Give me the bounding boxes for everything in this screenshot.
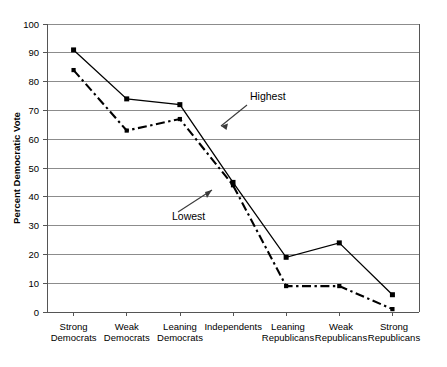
y-axis-title: Percent Democratic Vote [11,112,22,224]
x-label-leaning-democrats-line1: Leaning [163,321,197,332]
y-tick-label-70: 70 [28,105,39,116]
data-point-lowest-4[interactable] [284,284,288,288]
data-point-highest-6[interactable] [390,292,395,297]
y-tick-label-0: 0 [34,307,39,318]
y-tick-label-10: 10 [28,278,39,289]
x-label-strong-democrats-line1: Strong [60,321,88,332]
data-point-highest-4[interactable] [284,255,289,260]
x-label-leaning-republicans-line2: Republicans [262,332,315,343]
x-label-leaning-democrats-line2: Democrats [157,332,203,343]
x-tick-marks [74,312,393,316]
data-point-highest-0[interactable] [71,47,76,52]
x-label-leaning-republicans-line1: Leaning [271,321,305,332]
data-point-highest-1[interactable] [124,96,129,101]
x-label-independents-line1: Independents [204,321,262,332]
x-label-strong-republicans-line2: Republicans [368,332,421,343]
x-label-strong-democrats-line2: Democrats [51,332,97,343]
y-tick-label-20: 20 [28,249,39,260]
data-point-lowest-2[interactable] [178,117,182,121]
data-point-lowest-1[interactable] [125,128,129,132]
data-point-lowest-6[interactable] [390,307,394,311]
x-label-strong-republicans-line1: Strong [380,321,408,332]
y-tick-label-40: 40 [28,191,39,202]
x-label-weak-democrats-line1: Weak [115,321,139,332]
data-point-lowest-0[interactable] [71,68,75,72]
y-tick-label-50: 50 [28,163,39,174]
y-tick-label-90: 90 [28,47,39,58]
data-point-lowest-5[interactable] [337,284,341,288]
x-label-weak-democrats-line2: Democrats [104,332,150,343]
y-tick-label-60: 60 [28,134,39,145]
y-tick-marks [43,24,47,312]
y-tick-labels: 100 90 80 70 60 50 40 30 20 10 0 [23,19,39,318]
x-label-weak-republicans-line2: Republicans [315,332,368,343]
annotation-lowest-label: Lowest [172,210,205,222]
chart-container: 100 90 80 70 60 50 40 30 20 10 0 Percent… [0,0,447,367]
line-chart: 100 90 80 70 60 50 40 30 20 10 0 Percent… [0,0,447,367]
data-point-highest-3[interactable] [231,180,236,185]
y-tick-label-100: 100 [23,19,39,30]
x-category-labels: Strong Democrats Weak Democrats Leaning … [51,321,421,343]
data-point-highest-2[interactable] [177,102,182,107]
y-tick-label-80: 80 [28,76,39,87]
y-tick-label-30: 30 [28,220,39,231]
x-label-weak-republicans-line1: Weak [329,321,353,332]
annotation-highest-label: Highest [250,90,286,102]
data-point-highest-5[interactable] [337,240,342,245]
